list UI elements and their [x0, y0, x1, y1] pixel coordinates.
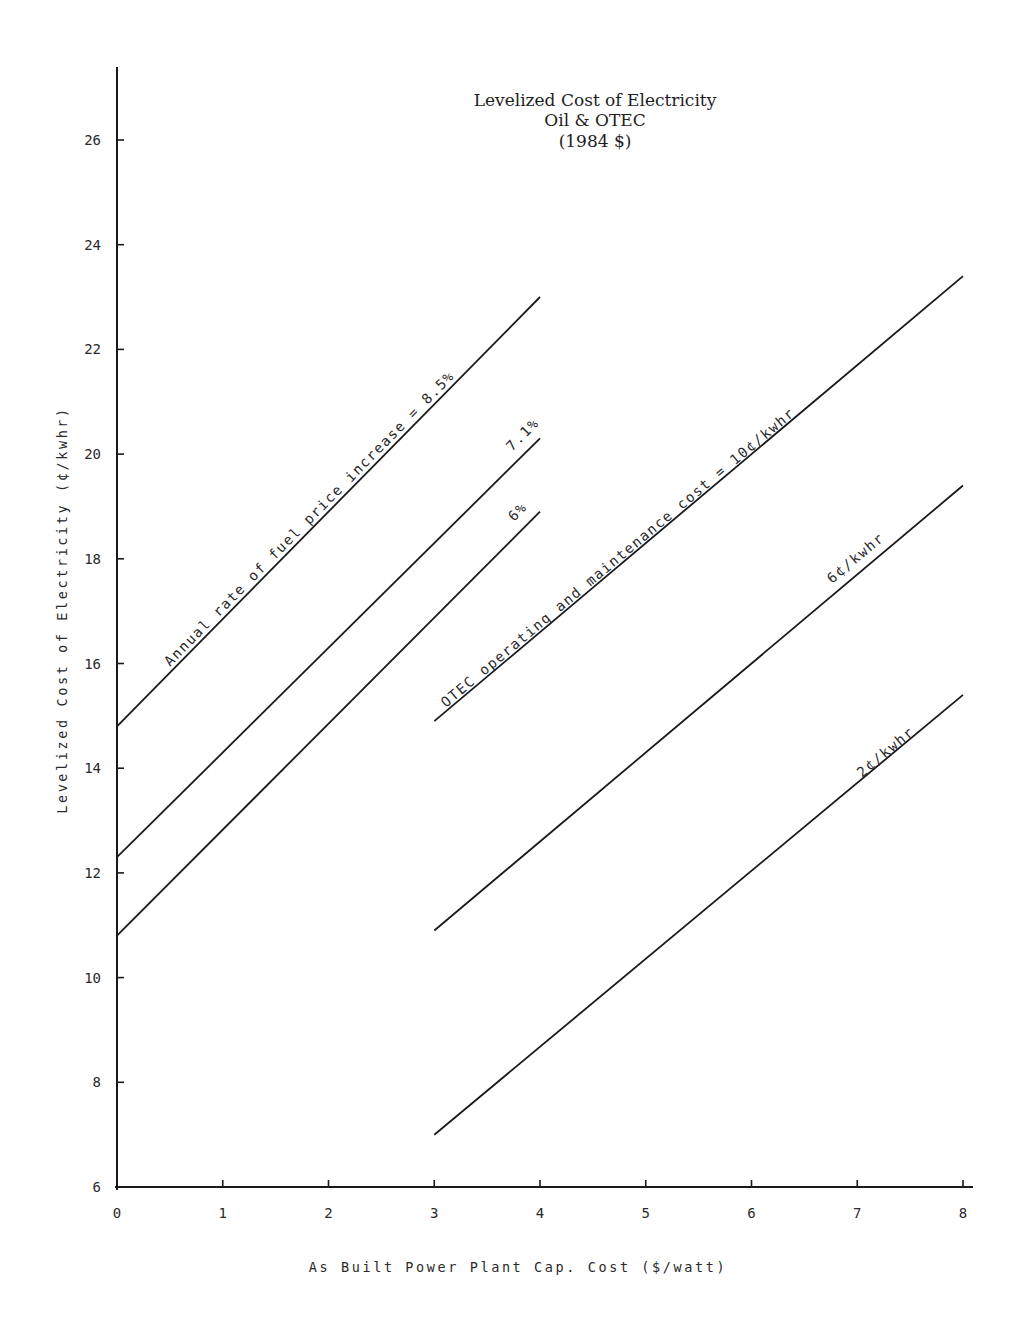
x-tick-label: 3: [430, 1205, 438, 1221]
y-tick-label: 22: [84, 341, 101, 357]
series-lines: [117, 276, 963, 1135]
x-tick-label: 1: [219, 1205, 227, 1221]
x-tick-label: 6: [747, 1205, 755, 1221]
chart-subtitle-units: (1984 $): [559, 131, 632, 151]
x-tick-label: 7: [853, 1205, 861, 1221]
y-axis-title: Levelized Cost of Electricity (¢/kwhr): [54, 406, 70, 814]
label-oil-6-percent: 6%: [505, 499, 530, 524]
series-line-4: [434, 486, 963, 931]
y-tick-label: 8: [93, 1074, 101, 1090]
chart-title: Levelized Cost of Electricity: [474, 90, 717, 110]
chart-canvas: Levelized Cost of Electricity Oil & OTEC…: [0, 0, 1023, 1329]
y-tick-label: 26: [84, 132, 101, 148]
label-otec-10-cents: OTEC operating and maintenance cost = 10…: [438, 404, 798, 710]
series-line-2: [117, 512, 540, 936]
y-tick-label: 16: [84, 656, 101, 672]
y-tick-label: 12: [84, 865, 101, 881]
y-tick-label: 14: [84, 760, 101, 776]
x-tick-label: 5: [642, 1205, 650, 1221]
label-oil-7-1-percent: 7.1%: [503, 415, 542, 455]
x-tick-label: 0: [113, 1205, 121, 1221]
x-axis-title: As Built Power Plant Cap. Cost ($/watt): [309, 1259, 727, 1275]
x-tick-label: 4: [536, 1205, 544, 1221]
chart-title-block: Levelized Cost of Electricity Oil & OTEC…: [474, 90, 717, 151]
label-otec-2-cents: 2¢/kwhr: [854, 723, 918, 780]
chart-subtitle: Oil & OTEC: [544, 110, 645, 130]
y-axis-ticks: 68101214161820222426: [84, 132, 124, 1195]
y-tick-label: 10: [84, 970, 101, 986]
y-tick-label: 24: [84, 237, 101, 253]
series-line-0: [117, 297, 540, 726]
x-tick-label: 2: [324, 1205, 332, 1221]
x-tick-label: 8: [959, 1205, 967, 1221]
label-oil-8-5-percent: Annual rate of fuel price increase = 8.5…: [161, 368, 458, 670]
y-tick-label: 20: [84, 446, 101, 462]
y-tick-label: 6: [93, 1179, 101, 1195]
y-tick-label: 18: [84, 551, 101, 567]
